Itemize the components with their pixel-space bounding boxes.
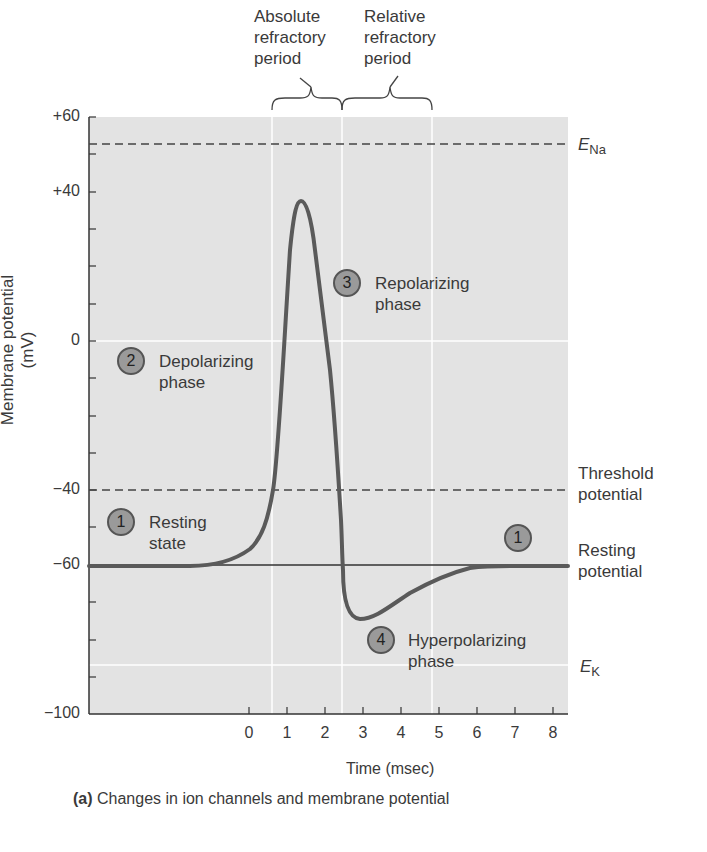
axes [89,117,568,714]
y-tick-label: −60 [20,555,80,573]
resting-potential-label: Restingpotential [578,540,642,582]
grid-lines [89,117,568,714]
caption-text: Changes in ion channels and membrane pot… [97,790,449,807]
x-axis-label: Time (msec) [346,758,434,779]
phase-3-label: Repolarizingphase [375,273,470,315]
phase-2-label: Depolarizingphase [159,351,254,393]
y-ticks [89,117,96,677]
x-tick-label: 0 [239,724,259,742]
x-tick-label: 1 [277,724,297,742]
y-tick-label: −100 [20,704,80,722]
relative-refractory-label: Relativerefractoryperiod [364,6,436,69]
action-potential-curve [89,201,568,619]
y-axis-label: Membrane potential (mV) [0,260,38,440]
phase-badge-3: 3 [333,269,361,297]
x-ticks [249,707,553,714]
y-tick-label: 0 [20,331,80,349]
y-tick-label: +60 [20,107,80,125]
absolute-refractory-label: Absoluterefractoryperiod [254,6,326,69]
x-tick-label: 4 [391,724,411,742]
figure-caption: (a) Changes in ion channels and membrane… [73,788,449,809]
y-tick-label: +40 [20,182,80,200]
refractory-braces [272,76,432,110]
x-tick-label: 6 [467,724,487,742]
e-na-label: ENa [578,134,606,160]
e-k-label: EK [580,656,600,682]
x-tick-label: 7 [505,724,525,742]
threshold-potential-label: Thresholdpotential [578,463,654,505]
phase-badge-2: 2 [117,347,145,375]
phase-1-label: Restingstate [149,512,207,554]
x-tick-label: 5 [429,724,449,742]
phase-4-label: Hyperpolarizingphase [408,630,526,672]
x-tick-label: 3 [353,724,373,742]
x-tick-label: 8 [543,724,563,742]
x-tick-label: 2 [315,724,335,742]
phase-badge-4: 4 [367,626,395,654]
caption-letter: (a) [73,790,93,807]
y-tick-label: −40 [20,480,80,498]
phase-badge-1: 1 [107,508,135,536]
phase-badge-1-return: 1 [504,524,532,552]
